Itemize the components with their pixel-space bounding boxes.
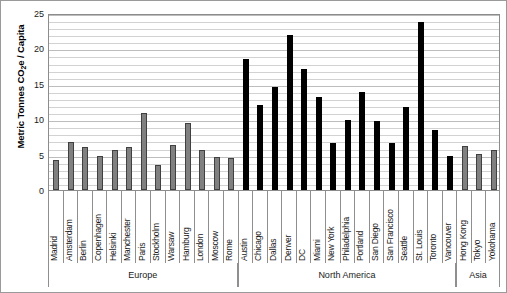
region-label: Asia xyxy=(469,270,487,280)
x-axis-category-label: Miami xyxy=(312,239,322,261)
region-group: Europe xyxy=(48,263,238,287)
bar xyxy=(330,143,336,190)
x-axis-category-label: Toronto xyxy=(428,234,438,261)
x-axis-category-label: Moscow xyxy=(210,231,220,261)
y-axis-tick-label: 0 xyxy=(39,186,44,196)
x-axis-category-label: Seattle xyxy=(399,236,409,261)
bar xyxy=(82,147,88,190)
bar xyxy=(53,160,59,190)
x-axis-category-label: Vancouver xyxy=(443,223,453,261)
x-axis-category-label: Chicago xyxy=(253,231,263,261)
bar xyxy=(374,121,380,190)
bar xyxy=(272,87,278,190)
x-axis-category-label: St. Louis xyxy=(414,230,424,261)
x-axis-category-label: Manchester xyxy=(122,219,132,261)
bar xyxy=(155,165,161,190)
x-axis-category-label: Helsinki xyxy=(108,233,118,261)
x-axis-category-label: New York xyxy=(326,227,336,261)
bar xyxy=(68,142,74,190)
chart-figure: Metric Tonnes CO2e / Capita 0510152025 M… xyxy=(0,0,507,293)
x-axis-category-label: Berlin xyxy=(78,240,88,261)
x-axis-category-label: Tokyo xyxy=(472,240,482,261)
region-label: Europe xyxy=(128,270,157,280)
bar-series xyxy=(49,15,499,190)
x-axis-category-label: Hong Kong xyxy=(458,220,468,261)
region-band: EuropeNorth AmericaAsia xyxy=(48,263,500,287)
y-axis-tick-label: 25 xyxy=(34,9,44,19)
y-axis-tick-label: 15 xyxy=(34,80,44,90)
x-axis-category-label: San Francisco xyxy=(385,209,395,261)
x-axis-category-label: Amsterdam xyxy=(64,219,74,261)
x-axis-category-label: Yokohama xyxy=(487,223,497,261)
x-axis-category-label: Madrid xyxy=(49,236,59,261)
bar xyxy=(447,156,453,190)
bar xyxy=(185,123,191,190)
bar xyxy=(476,154,482,190)
x-axis-category-label: Portland xyxy=(355,231,365,261)
plot-area xyxy=(48,14,500,191)
bar xyxy=(112,150,118,190)
y-axis-tick-labels: 0510152025 xyxy=(21,1,47,201)
bar xyxy=(359,92,365,190)
x-axis-category-label: Dallas xyxy=(268,239,278,261)
x-axis-category-labels: MadridAmsterdamBerlinCopenhagenHelsinkiM… xyxy=(48,191,500,263)
x-axis-category-label: Rome xyxy=(224,239,234,261)
bar xyxy=(170,145,176,190)
x-axis-category-label: San Diego xyxy=(370,223,380,261)
bar xyxy=(432,130,438,190)
bar xyxy=(345,120,351,190)
bar xyxy=(97,156,103,190)
region-group: Asia xyxy=(456,263,500,287)
x-axis-category-label: Warsaw xyxy=(166,232,176,261)
x-axis-category-label: Paris xyxy=(137,243,147,261)
bar xyxy=(126,147,132,190)
x-axis-category-label: Austin xyxy=(239,239,249,261)
bar xyxy=(243,59,249,190)
bar xyxy=(228,158,234,190)
region-label: North America xyxy=(318,270,375,280)
bar xyxy=(141,113,147,190)
bar xyxy=(287,35,293,190)
x-axis-category-label: London xyxy=(195,234,205,261)
bar xyxy=(462,146,468,190)
bar xyxy=(214,157,220,190)
x-axis-category-label: Copenhagen xyxy=(93,214,103,261)
bar xyxy=(301,69,307,190)
y-axis-tick-label: 20 xyxy=(34,44,44,54)
x-axis-category-label: Stockholm xyxy=(151,223,161,261)
y-axis-tick-label: 5 xyxy=(39,151,44,161)
bar xyxy=(389,143,395,190)
bar xyxy=(418,22,424,191)
y-axis-tick-label: 10 xyxy=(34,115,44,125)
x-axis-category-label: Hamburg xyxy=(181,227,191,261)
y-axis-title-container: Metric Tonnes CO2e / Capita xyxy=(1,1,21,201)
bar xyxy=(491,150,497,190)
bar xyxy=(199,150,205,190)
region-group: North America xyxy=(238,263,457,287)
bar xyxy=(316,97,322,190)
x-axis-category-label: Denver xyxy=(283,235,293,261)
bar xyxy=(257,105,263,190)
x-axis-category-label: DC xyxy=(297,249,307,261)
x-axis-category-label: Philadelphia xyxy=(341,217,351,261)
bar xyxy=(403,107,409,190)
